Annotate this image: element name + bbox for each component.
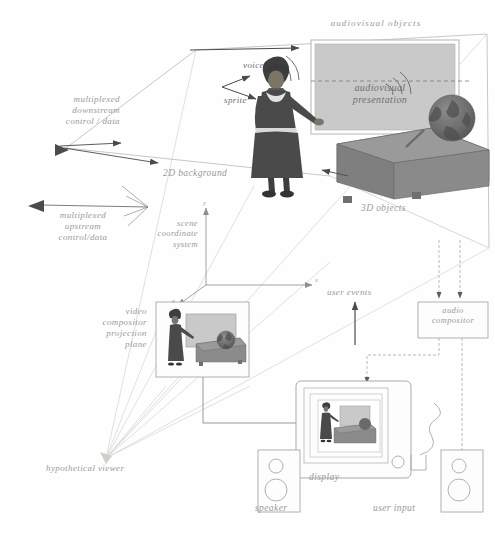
label-scene-coordinate-system: scene coordinate system	[118, 218, 198, 249]
label-audiovisual-objects: audiovisual objects	[296, 18, 456, 29]
video-compositor-plane	[156, 302, 249, 377]
label-display: display	[309, 472, 339, 484]
label-speaker: speaker	[255, 503, 287, 515]
label-user-input: user input	[373, 503, 415, 515]
diagram-svg	[0, 0, 495, 534]
audio-compositor-inputs	[439, 240, 460, 298]
axis-label-y: y	[203, 199, 206, 207]
speaker-right	[441, 450, 483, 512]
label-3d-objects: 3D objects	[361, 203, 406, 215]
label-voice: voice	[243, 60, 264, 71]
diagram-canvas: audiovisual objects audiovisual presenta…	[0, 0, 495, 534]
display-device	[296, 381, 411, 478]
label-hypothetical-viewer: hypothetical viewer	[46, 463, 124, 474]
label-user-events: user events	[327, 287, 372, 298]
label-multiplexed-downstream: multiplexed downstream control / data	[10, 94, 120, 127]
label-2d-background: 2D background	[163, 168, 227, 180]
label-audiovisual-presentation: audiovisual presentation	[326, 82, 434, 106]
label-audio-compositor: audio compositor	[418, 305, 488, 326]
scene-coordinate-axes	[178, 208, 312, 305]
label-sprite: sprite	[224, 95, 247, 106]
axis-label-x: x	[315, 276, 318, 284]
user-input-device	[411, 403, 441, 470]
axis-label-z: z	[172, 297, 175, 305]
label-video-compositor-plane: video compositor projection plane	[62, 306, 147, 350]
